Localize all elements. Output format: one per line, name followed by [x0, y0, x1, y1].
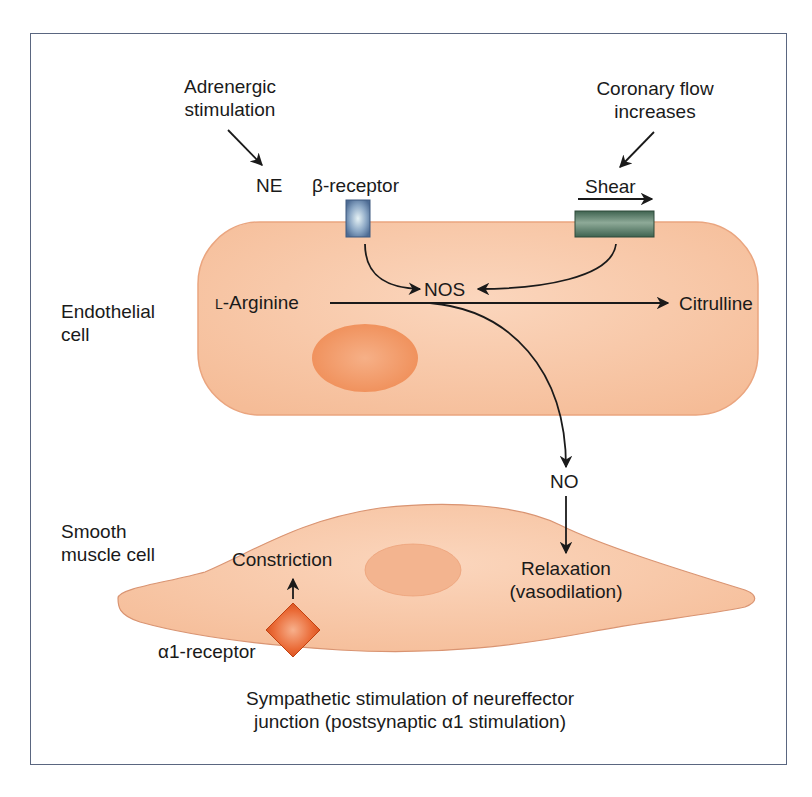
relaxation-line2: (vasodilation) [496, 580, 636, 603]
endothelial-cell-body [198, 222, 758, 415]
coronary-flow-label: Coronary flow increases [580, 77, 730, 123]
l-arginine-label: L-Arginine [215, 291, 299, 316]
coronary-line2: increases [580, 100, 730, 123]
shear-receptor-icon [575, 211, 654, 237]
relaxation-label: Relaxation (vasodilation) [496, 557, 636, 603]
citrulline-label: Citrulline [679, 292, 753, 315]
coronary-arrow [620, 132, 654, 167]
adrenergic-line2: stimulation [160, 98, 300, 121]
smooth-line1: Smooth [61, 520, 155, 543]
arginine-text: -Arginine [223, 292, 299, 313]
endothelial-nucleus [312, 324, 418, 392]
smooth-muscle-nucleus [365, 544, 461, 596]
beta-receptor-icon [346, 200, 370, 237]
adrenergic-stimulation-label: Adrenergic stimulation [160, 75, 300, 121]
adrenergic-line1: Adrenergic [160, 75, 300, 98]
ne-label: NE [256, 174, 282, 197]
constriction-label: Constriction [232, 548, 332, 571]
adrenergic-arrow [228, 130, 262, 165]
caption-line2: junction (postsynaptic α1 stimulation) [150, 710, 670, 733]
smooth-muscle-cell-label: Smooth muscle cell [61, 520, 155, 566]
shear-label: Shear [585, 175, 636, 198]
endothelial-line1: Endothelial [61, 300, 155, 323]
relaxation-line1: Relaxation [496, 557, 636, 580]
smooth-line2: muscle cell [61, 543, 155, 566]
alpha1-receptor-label: α1-receptor [158, 640, 256, 663]
beta-receptor-label: β-receptor [312, 174, 399, 197]
endothelial-line2: cell [61, 323, 155, 346]
coronary-line1: Coronary flow [580, 77, 730, 100]
endothelial-cell-label: Endothelial cell [61, 300, 155, 346]
figure-caption: Sympathetic stimulation of neureffector … [150, 687, 670, 733]
l-prefix: L [215, 296, 223, 312]
no-label: NO [550, 470, 579, 493]
nos-label: NOS [424, 278, 465, 301]
caption-line1: Sympathetic stimulation of neureffector [150, 687, 670, 710]
